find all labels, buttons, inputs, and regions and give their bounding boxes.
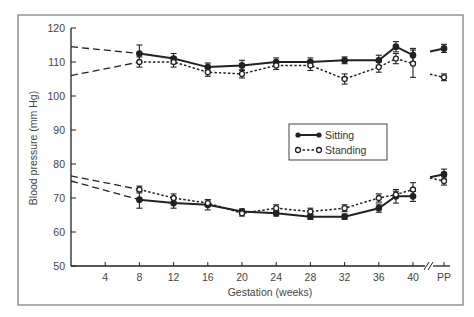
y-tick-label: 110 [48,56,65,68]
data-point [239,63,244,68]
x-tick-label: 24 [270,271,282,283]
x-tick-label: 32 [339,271,351,283]
data-point [442,75,447,80]
data-point [137,197,142,202]
data-point [342,77,347,82]
data-point [274,63,279,68]
x-tick-label: PP [437,271,451,283]
y-axis-title: Blood pressure (mm Hg) [27,91,39,205]
data-point [411,61,416,66]
data-point [393,56,398,61]
y-tick-label: 120 [47,22,65,34]
y-tick-label: 90 [53,124,65,136]
data-point [240,71,245,76]
data-point [308,209,313,214]
data-point [205,201,210,206]
y-tick-label: 50 [53,260,65,272]
x-tick-label: 12 [168,271,180,283]
x-tick-label: 4 [102,271,108,283]
data-point [342,58,347,63]
x-tick-label: 16 [202,271,214,283]
data-point [376,206,381,211]
data-point [442,179,447,184]
x-tick-label: 20 [236,271,248,283]
data-point [205,70,210,75]
data-point [171,196,176,201]
data-point [376,65,381,70]
x-tick-label: 36 [373,271,385,283]
x-tick-label: 8 [136,271,142,283]
y-tick-label: 100 [47,90,65,102]
x-axis-title: Gestation (weeks) [228,286,313,298]
legend: Sitting Standing [289,124,387,160]
data-point [274,206,279,211]
data-point [137,51,142,56]
y-tick-label: 70 [53,192,65,204]
data-point [308,63,313,68]
data-point [240,211,245,216]
chart-figure: 5060708090100110120481216202428323640PP … [0,0,474,317]
x-tick-label: 40 [407,271,419,283]
data-point [411,187,416,192]
y-tick-label: 80 [53,158,65,170]
data-point [137,60,142,65]
data-point [441,172,446,177]
legend-label-sitting: Sitting [325,129,354,141]
data-point [393,44,398,49]
data-point [342,214,347,219]
y-tick-label: 60 [53,226,65,238]
data-point [137,187,142,192]
data-point [441,46,446,51]
data-point [171,60,176,65]
data-point [393,192,398,197]
data-point [342,206,347,211]
x-tick-label: 28 [305,271,317,283]
legend-label-standing: Standing [325,144,367,156]
data-point [376,196,381,201]
